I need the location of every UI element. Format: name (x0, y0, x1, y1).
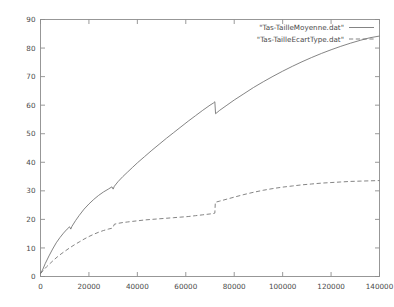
x-tick-label: 120000 (317, 282, 345, 291)
legend-label-1: "Tas-TailleMoyenne.dat" (259, 23, 344, 32)
y-tick-label: 0 (31, 272, 36, 281)
y-tick-label: 40 (26, 158, 36, 167)
y-tick-label: 20 (26, 215, 36, 224)
legend-label-2: "Tas-TailleEcartType.dat" (257, 35, 344, 44)
y-tick-label: 80 (26, 44, 36, 53)
x-tick-label: 0 (38, 282, 43, 291)
y-tick-label: 70 (26, 72, 36, 81)
y-tick-label: 10 (26, 244, 36, 253)
chart-figure: 0102030405060708090 02000040000600008000… (0, 0, 394, 307)
y-tick-label: 30 (26, 186, 36, 195)
x-tick-label: 80000 (223, 282, 246, 291)
x-tick-label: 140000 (366, 282, 394, 291)
x-tick-label: 100000 (269, 282, 297, 291)
chart-background (0, 0, 394, 307)
y-tick-label: 50 (26, 129, 36, 138)
x-tick-label: 40000 (126, 282, 149, 291)
x-tick-label: 60000 (174, 282, 197, 291)
plot-svg: 0102030405060708090 02000040000600008000… (0, 0, 394, 307)
y-tick-label: 60 (26, 101, 36, 110)
y-tick-label: 90 (26, 15, 36, 24)
x-tick-label: 20000 (77, 282, 100, 291)
